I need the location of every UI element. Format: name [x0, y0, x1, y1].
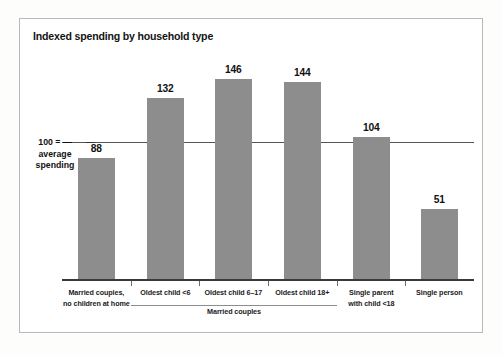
plot-area: 100 = — average spending 88 132 146 144 … [0, 0, 502, 355]
bar-single-person [421, 209, 458, 279]
category-label-1: Oldest child <6 [126, 288, 204, 299]
bar-value-3: 144 [270, 66, 334, 78]
bar-married-no-children [78, 158, 115, 279]
category-label-2: Oldest child 6–17 [195, 288, 273, 299]
category-label-1-line-1: Oldest child <6 [126, 288, 204, 299]
category-label-0-line-1: Married couples, [57, 288, 135, 299]
category-label-5: Single person [401, 288, 479, 299]
axis-tick-0 [131, 281, 132, 286]
category-label-5-line-1: Single person [401, 288, 479, 299]
category-label-2-line-1: Oldest child 6–17 [195, 288, 273, 299]
reference-label-line-3: spending [26, 159, 83, 171]
category-label-3-line-1: Oldest child 18+ [263, 288, 341, 299]
category-label-0-line-2: no children at home [57, 299, 135, 310]
category-label-0: Married couples, no children at home [57, 288, 135, 309]
bar-oldest-child-under-6 [147, 98, 184, 279]
axis-tick-4 [405, 281, 406, 286]
axis-tick-2 [268, 281, 269, 286]
axis-tick-3 [337, 281, 338, 286]
bar-oldest-child-18-plus [284, 82, 321, 279]
bar-single-parent [353, 137, 390, 279]
axis-tick-1 [199, 281, 200, 286]
bar-value-0: 88 [64, 142, 128, 154]
category-label-4: Single parent with child <18 [332, 288, 410, 309]
chart-page: Indexed spending by household type 100 =… [0, 0, 502, 355]
category-label-4-line-1: Single parent [332, 288, 410, 299]
category-label-3: Oldest child 18+ [263, 288, 341, 299]
bar-value-2: 146 [202, 63, 266, 75]
group-bracket-married-couples [131, 305, 337, 306]
bar-value-5: 51 [408, 193, 472, 205]
bar-oldest-child-6-17 [215, 79, 252, 279]
category-label-4-line-2: with child <18 [332, 299, 410, 310]
bar-value-1: 132 [133, 82, 197, 94]
bar-value-4: 104 [339, 121, 403, 133]
group-label-married-couples: Married couples [141, 307, 326, 316]
